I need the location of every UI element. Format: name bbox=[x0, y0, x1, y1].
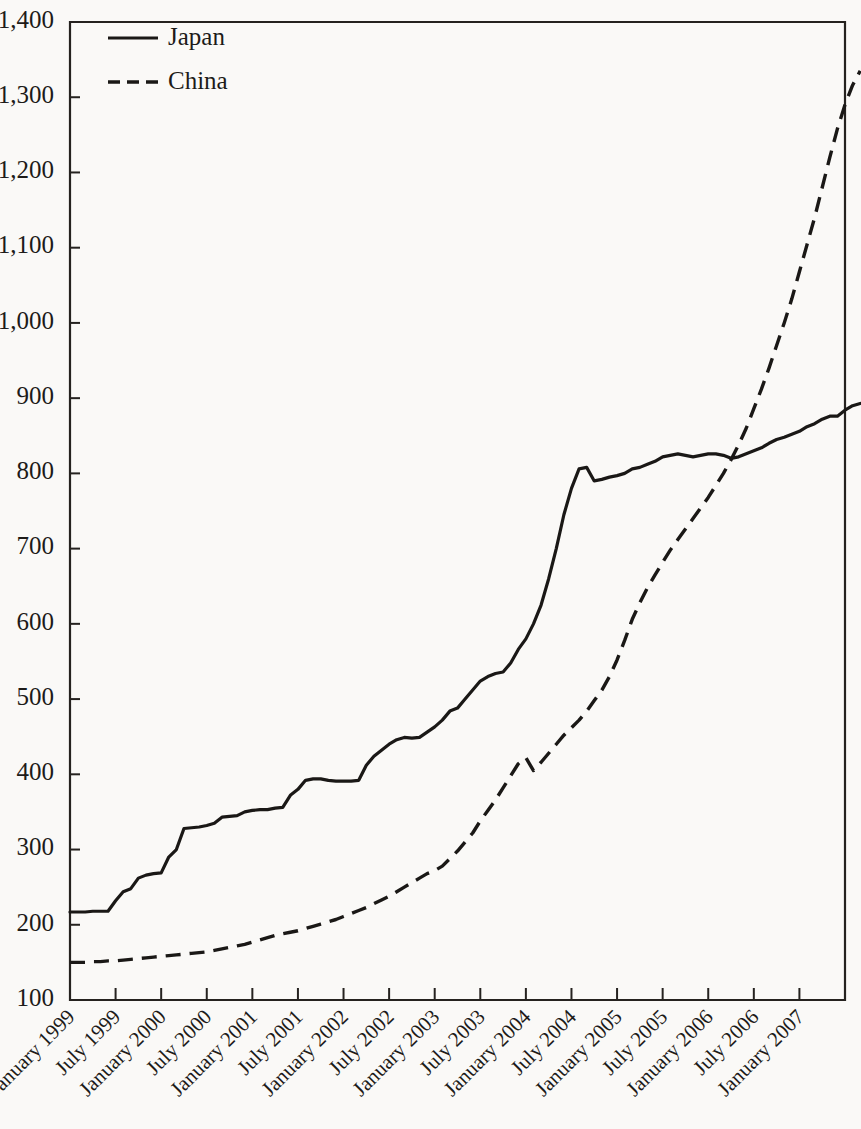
y-tick-label: 800 bbox=[17, 457, 55, 484]
y-tick-label: 600 bbox=[17, 608, 55, 635]
chart-legend: Japan China bbox=[108, 23, 228, 94]
y-tick-label: 100 bbox=[17, 984, 55, 1011]
y-tick-label: 1,400 bbox=[0, 6, 54, 33]
y-tick-label: 1,200 bbox=[0, 156, 54, 183]
y-tick-label: 1,100 bbox=[0, 231, 54, 258]
y-tick-label: 500 bbox=[17, 683, 55, 710]
y-tick-label: 900 bbox=[17, 382, 55, 409]
series-line-japan bbox=[70, 403, 860, 912]
y-tick-label: 300 bbox=[17, 833, 55, 860]
legend-label-japan: Japan bbox=[168, 23, 225, 50]
x-axis-tick-labels: January 1999July 1999January 2000July 20… bbox=[0, 1004, 809, 1101]
chart-page: 1002003004005006007008009001,0001,1001,2… bbox=[0, 0, 861, 1129]
y-tick-label: 1,000 bbox=[0, 307, 54, 334]
y-tick-label: 400 bbox=[17, 758, 55, 785]
y-axis-tick-labels: 1002003004005006007008009001,0001,1001,2… bbox=[0, 6, 54, 1011]
line-chart: 1002003004005006007008009001,0001,1001,2… bbox=[0, 0, 861, 1129]
legend-label-china: China bbox=[168, 67, 228, 94]
y-tick-label: 700 bbox=[17, 532, 55, 559]
x-axis-tick-marks bbox=[70, 988, 799, 1000]
y-axis-tick-marks bbox=[70, 97, 80, 925]
y-tick-label: 200 bbox=[17, 909, 55, 936]
y-tick-label: 1,300 bbox=[0, 81, 54, 108]
